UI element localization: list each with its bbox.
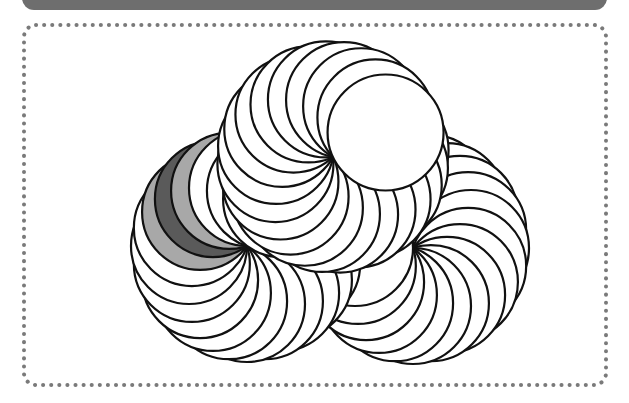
rosette-circle: [328, 74, 444, 190]
top-rosette: [217, 41, 448, 272]
rosette-diagram: [0, 0, 629, 403]
